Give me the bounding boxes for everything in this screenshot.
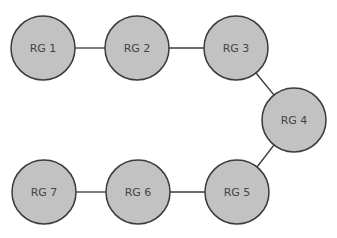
node-label: RG 2: [124, 42, 151, 55]
node-rg3: RG 3: [204, 16, 268, 80]
node-label: RG 6: [125, 186, 152, 199]
node-rg6: RG 6: [106, 160, 170, 224]
node-label: RG 5: [224, 186, 251, 199]
node-rg2: RG 2: [105, 16, 169, 80]
node-rg7: RG 7: [12, 160, 76, 224]
node-rg1: RG 1: [11, 16, 75, 80]
edge-rg3-rg4: [256, 73, 274, 95]
node-rg4: RG 4: [262, 88, 326, 152]
node-rg5: RG 5: [205, 160, 269, 224]
node-label: RG 4: [281, 114, 308, 127]
ring-group-diagram: RG 1 RG 2 RG 3 RG 4 RG 5 RG 6 RG 7: [0, 0, 337, 238]
edge-rg4-rg5: [257, 145, 274, 167]
node-label: RG 1: [30, 42, 57, 55]
node-label: RG 7: [31, 186, 58, 199]
node-label: RG 3: [223, 42, 250, 55]
